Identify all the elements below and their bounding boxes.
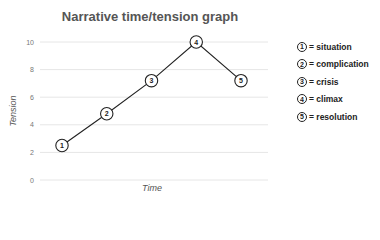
data-point-label: 1: [60, 142, 64, 149]
y-tick-label: 4: [30, 121, 34, 128]
legend-item: 3= crisis: [297, 73, 369, 91]
legend-item: 2= complication: [297, 56, 369, 74]
y-axis-ticks: 0246810: [26, 39, 34, 184]
data-point-label: 4: [194, 39, 198, 46]
x-axis-label: Time: [142, 183, 162, 193]
data-point-label: 3: [150, 77, 154, 84]
number-circle-icon: 5: [297, 112, 307, 122]
y-tick-label: 0: [30, 177, 34, 184]
legend: 1= situation 2= complication 3= crisis 4…: [297, 38, 369, 126]
number-circle-icon: 4: [297, 94, 307, 104]
number-circle-icon: 1: [297, 42, 307, 52]
y-tick-label: 6: [30, 94, 34, 101]
tension-line: [62, 42, 241, 146]
data-points: 12345: [56, 36, 247, 152]
number-circle-icon: 3: [297, 77, 307, 87]
legend-item: 1= situation: [297, 38, 369, 56]
y-tick-label: 2: [30, 149, 34, 156]
number-circle-icon: 2: [297, 59, 307, 69]
data-point-label: 5: [239, 77, 243, 84]
data-point-label: 2: [105, 110, 109, 117]
gridlines: [40, 42, 268, 180]
y-tick-label: 10: [26, 39, 34, 46]
y-axis-label: Tension: [8, 95, 18, 126]
y-tick-label: 8: [30, 66, 34, 73]
legend-item: 5= resolution: [297, 108, 369, 126]
legend-item: 4= climax: [297, 91, 369, 109]
